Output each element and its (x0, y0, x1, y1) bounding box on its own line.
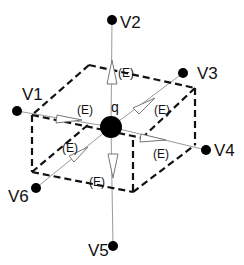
charge-q (100, 116, 122, 138)
field-label-right: (E) (153, 147, 169, 161)
cube-edge (32, 124, 89, 172)
field-line-v5 (111, 127, 113, 246)
node-label-v4: V4 (214, 141, 235, 160)
charge-label: q (111, 99, 119, 115)
field-line-v3 (111, 73, 183, 127)
node-label-v5: V5 (88, 241, 109, 260)
arrow-right-icon (140, 134, 166, 142)
field-label-up: (E) (118, 66, 134, 80)
node-v5 (108, 241, 118, 251)
field-label-downleft: (E) (62, 141, 78, 155)
gauss-cube-diagram: q V1 V2 V3 V4 V5 V6 (E) (E) (E) (E) (E) … (0, 0, 244, 265)
cube-edge (32, 172, 133, 192)
node-v6 (31, 183, 41, 193)
node-label-v2: V2 (120, 13, 141, 32)
arrow-up-icon (107, 60, 117, 84)
node-label-v1: V1 (22, 85, 43, 104)
node-label-v3: V3 (197, 64, 218, 83)
node-v3 (178, 68, 188, 78)
node-label-v6: V6 (8, 187, 29, 206)
node-v4 (201, 145, 211, 155)
field-label-upright: (E) (154, 103, 170, 117)
field-label-down: (E) (89, 175, 105, 189)
arrow-down-icon (108, 154, 118, 178)
node-v1 (12, 106, 22, 116)
arrow-upright-icon (133, 98, 155, 114)
node-v2 (107, 15, 117, 25)
field-label-left: (E) (77, 103, 93, 117)
